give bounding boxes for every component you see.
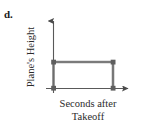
figure-panel: d. Plane's Height Seconds after Takeoff xyxy=(0,0,141,134)
data-series-plane-height xyxy=(51,60,115,91)
step-path-core xyxy=(54,62,114,88)
data-point-marker-top-left xyxy=(51,60,56,65)
x-axis-title-line-2: Takeoff xyxy=(38,110,138,123)
x-axis-title-line-1: Seconds after xyxy=(38,97,138,110)
data-point-marker-top-right xyxy=(111,60,116,65)
x-axis-title: Seconds after Takeoff xyxy=(38,97,138,123)
step-path-outer xyxy=(54,62,114,88)
data-point-marker-origin xyxy=(51,86,56,91)
data-point-marker-bottom-right xyxy=(111,86,116,91)
